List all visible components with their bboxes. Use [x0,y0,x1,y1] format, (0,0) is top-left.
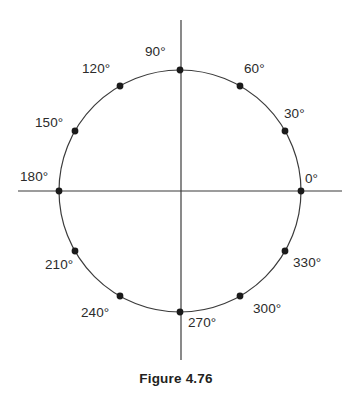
angle-label-180: 180° [20,170,48,184]
angle-label-300: 300° [253,302,281,316]
figure-caption: Figure 4.76 [0,371,352,386]
point-240-marker [117,293,124,300]
point-300-marker [237,293,244,300]
angle-label-210: 210° [45,258,73,272]
angle-label-90: 90° [145,45,166,59]
angle-label-150: 150° [35,116,63,130]
point-90-marker [177,67,184,74]
angle-label-270: 270° [188,316,216,330]
point-0-marker [298,188,305,195]
angle-label-0: 0° [305,172,318,186]
angle-label-240: 240° [81,306,109,320]
point-270-marker [177,309,184,316]
point-120-marker [117,83,124,90]
point-150-marker [72,128,79,135]
point-210-marker [72,248,79,255]
point-330-marker [282,248,289,255]
unit-circle-diagram [0,0,352,396]
point-30-marker [282,128,289,135]
point-60-marker [237,83,244,90]
angle-label-330: 330° [293,256,321,270]
unit-circle-figure: 0°30°60°90°120°150°180°210°240°270°300°3… [0,0,352,396]
angle-label-120: 120° [82,62,110,76]
point-180-marker [56,188,63,195]
angle-label-60: 60° [244,62,265,76]
angle-label-30: 30° [284,107,305,121]
